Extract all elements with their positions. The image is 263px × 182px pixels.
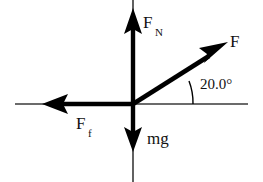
friction-force-label: F — [76, 115, 85, 132]
normal-force-label: F — [143, 14, 152, 31]
angle-arc — [189, 81, 193, 104]
friction-force-label-subscript: f — [88, 128, 92, 139]
weight-force-label: mg — [147, 130, 169, 147]
applied-force-vector-shaft — [133, 56, 209, 104]
angle-label: 20.0° — [200, 77, 232, 92]
force-diagram-canvas: F N F F f mg 20.0° — [0, 0, 263, 182]
applied-force-label: F — [230, 33, 239, 50]
normal-force-label-subscript: N — [155, 27, 163, 38]
